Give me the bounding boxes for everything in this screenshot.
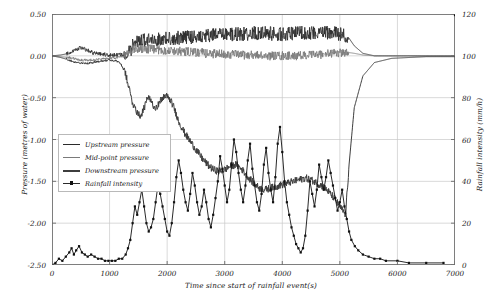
legend-swatch-line-icon (63, 153, 80, 162)
x-tick: 5000 (318, 269, 362, 278)
legend-swatch-line-marker-icon (63, 179, 80, 188)
y-tick-left: -1.50 (8, 177, 46, 186)
y-tick-right: 80 (462, 94, 490, 103)
y-tick-left: 0.00 (8, 52, 46, 61)
legend-item-downstream-pressure: Downstream pressure (63, 164, 166, 177)
x-tick: 0 (30, 269, 74, 278)
figure-title (0, 0, 502, 9)
y-tick-left: -1.00 (8, 136, 46, 145)
legend-swatch-line-icon (63, 140, 80, 149)
y-tick-right: 100 (462, 52, 490, 61)
y-tick-left: -2.00 (8, 219, 46, 228)
legend-item-upstream-pressure: Upstream pressure (63, 138, 166, 151)
x-tick: 7000 (433, 269, 477, 278)
legend-label: Rainfall intensity (85, 180, 142, 188)
chart-legend: Upstream pressure Mid-point pressure Dow… (58, 134, 171, 192)
y-tick-right: 120 (462, 10, 490, 19)
y-tick-right: 20 (462, 219, 490, 228)
x-tick: 3000 (203, 269, 247, 278)
x-tick: 1000 (88, 269, 132, 278)
x-tick: 2000 (145, 269, 189, 278)
legend-label: Mid-point pressure (85, 154, 149, 162)
legend-label: Downstream pressure (85, 167, 159, 175)
x-axis-label: Time since start of rainfall event(s) (0, 281, 502, 290)
y-tick-left: 0.50 (8, 10, 46, 19)
x-tick: 4000 (260, 269, 304, 278)
legend-label: Upstream pressure (85, 141, 150, 149)
y-tick-right: 40 (462, 177, 490, 186)
y-tick-right: 60 (462, 136, 490, 145)
x-tick: 6000 (375, 269, 419, 278)
legend-item-mid-point-pressure: Mid-point pressure (63, 151, 166, 164)
legend-item-rainfall-intensity: Rainfall intensity (63, 177, 166, 190)
legend-swatch-line-icon (63, 166, 80, 175)
y-tick-left: -0.50 (8, 94, 46, 103)
chart-figure: Pressure (metres of water) Rainfall inte… (0, 0, 502, 299)
